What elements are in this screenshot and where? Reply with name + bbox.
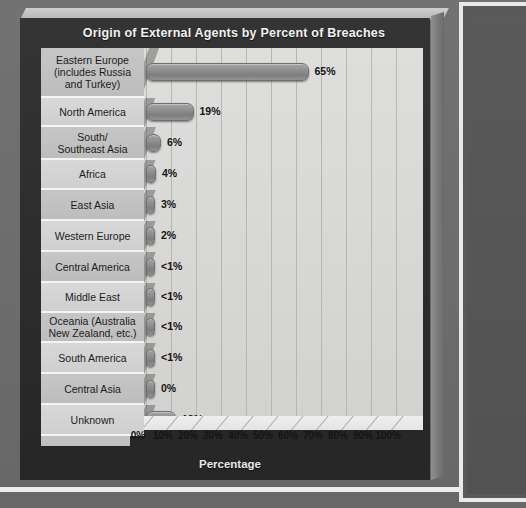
category-label-text: Oceania (AustraliaNew Zealand, etc.) [48,315,136,339]
bar-row: <1% [144,283,423,313]
bar-value-label: 19% [200,105,221,117]
x-tick-label: 0% [131,430,145,441]
x-tick-label: 30% [203,430,223,441]
right-side-panel-inner [467,10,526,494]
plot-area: 65%19%6%4%3%2%<1%<1%<1%<1%0%12% [144,48,423,416]
category-label-column: Eastern Europe(includes Russiaand Turkey… [41,48,144,416]
category-label-line: Middle East [65,291,120,303]
bar-value-label: 2% [161,229,176,241]
bar-value-label: 4% [162,167,177,179]
category-label-cell: Oceania (AustraliaNew Zealand, etc.) [41,313,144,343]
category-label-line: North America [59,106,126,118]
bar-value-label: 65% [315,65,336,77]
bar-value-label: <1% [161,351,182,363]
category-label-line: Africa [79,168,106,180]
bar-row: 6% [144,127,423,160]
category-label-line: South America [58,352,126,364]
bar[interactable] [146,134,161,152]
plot-floor [144,416,423,430]
bar-row: 4% [144,160,423,190]
category-label-text: Central America [55,261,130,273]
category-label-line: Central Asia [64,383,121,395]
bar-row: <1% [144,252,423,283]
category-label-line: Eastern Europe [54,54,131,66]
chart-title: Origin of External Agents by Percent of … [20,18,430,48]
floor-grid-line [288,416,306,430]
bar-value-label: 6% [167,136,182,148]
category-label-cell: Eastern Europe(includes Russiaand Turkey… [41,48,144,98]
bar[interactable] [146,227,155,245]
category-label-cell: South America [41,343,144,374]
bar-row: <1% [144,343,423,374]
x-tick-label: 90% [353,430,373,441]
category-label-text: East Asia [71,199,115,211]
x-tick-label: 100% [375,430,401,441]
category-label-text: South/Southeast Asia [57,131,127,155]
bar[interactable] [146,349,155,367]
category-label-line: Unknown [71,414,115,426]
category-label-line: Western Europe [55,230,131,242]
bar[interactable] [146,258,155,276]
bar-row: 2% [144,221,423,252]
floor-grid-line [213,416,231,430]
floor-grid-line [163,416,181,430]
category-label-text: Middle East [65,291,120,303]
category-label-line: Southeast Asia [57,143,127,155]
category-label-cell: Middle East [41,283,144,313]
bar-row: 19% [144,98,423,127]
category-label-line: East Asia [71,199,115,211]
floor-grid-line [263,416,281,430]
category-label-cell: North America [41,98,144,127]
category-label-cell: South/Southeast Asia [41,127,144,160]
category-label-line: New Zealand, etc.) [48,327,136,339]
bar[interactable] [146,196,155,214]
x-tick-label: 80% [328,430,348,441]
x-tick-label: 20% [178,430,198,441]
plot-wrapper: Eastern Europe(includes Russiaand Turkey… [41,48,423,446]
floor-grid-line [144,416,155,430]
bar[interactable] [146,380,155,398]
bar[interactable] [146,288,155,306]
floor-grid-line [338,416,356,430]
category-label-text: Unknown [71,414,115,426]
right-side-panel [459,2,526,502]
floor-grid-line [238,416,256,430]
category-label-text: Western Europe [55,230,131,242]
category-label-text: Central Asia [64,383,121,395]
bar[interactable] [146,63,309,81]
bar-value-label: <1% [161,260,182,272]
floor-grid-line [188,416,206,430]
x-axis-ticks: 0%10%20%30%40%50%60%70%80%90%100% [121,430,423,446]
category-label-line: (includes Russia [54,66,131,78]
bar-value-label: 0% [161,382,176,394]
bar[interactable] [146,318,155,336]
frame-right-bevel [431,12,444,480]
bar-row: 65% [144,48,423,98]
page-background: Origin of External Agents by Percent of … [0,0,526,508]
x-axis-title: Percentage [20,448,430,480]
category-label-line: Central America [55,261,130,273]
floor-grid-line [363,416,381,430]
category-label-text: Africa [79,168,106,180]
x-tick-label: 40% [228,430,248,441]
category-label-line: Oceania (Australia [48,315,136,327]
category-label-line: South/ [57,131,127,143]
chart-frame: Origin of External Agents by Percent of … [20,8,443,480]
x-tick-label: 50% [253,430,273,441]
floor-grid-line [313,416,331,430]
category-label-cell: Central Asia [41,374,144,405]
category-label-cell: Central America [41,252,144,283]
bar-value-label: <1% [161,290,182,302]
bar-row: <1% [144,313,423,343]
category-label-cell: Africa [41,160,144,190]
bar[interactable] [146,103,194,121]
category-label-text: North America [59,106,126,118]
bar-row: 3% [144,190,423,221]
category-label-text: South America [58,352,126,364]
category-label-text: Eastern Europe(includes Russiaand Turkey… [54,54,131,90]
bar[interactable] [146,165,156,183]
category-label-line: and Turkey) [54,78,131,90]
x-tick-label: 60% [278,430,298,441]
page-bottom-band [0,492,463,508]
x-tick-label: 70% [303,430,323,441]
